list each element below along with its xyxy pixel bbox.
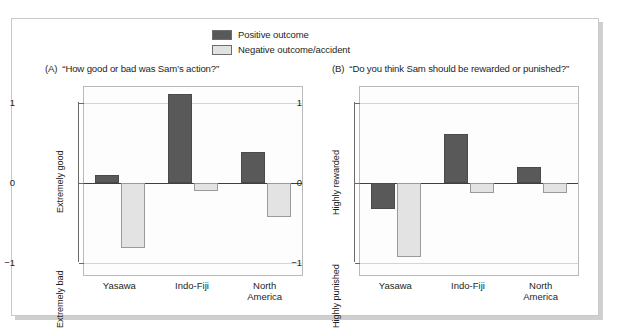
legend-swatch-negative-icon (212, 45, 232, 55)
legend-item-negative: Negative outcome/accident (212, 43, 452, 56)
panel-a-plot-area (83, 86, 303, 276)
legend-item-positive: Positive outcome (212, 28, 452, 41)
bar-yasawa-negative (121, 183, 145, 248)
x-axis-label: Indo-Fiji (451, 280, 485, 291)
panel-a-y-bottom-label: Extremely bad (55, 271, 65, 328)
panel-a-tag: (A) (45, 63, 57, 74)
panel-b-y-top-label: Highly rewarded (331, 150, 341, 215)
panel-a-question: “How good or bad was Sam’s action?” (62, 63, 219, 74)
chart-legend: Positive outcome Negative outcome/accide… (212, 28, 452, 58)
bar-yasawa-positive (95, 175, 119, 183)
y-tick-label: −1 (0, 257, 15, 268)
y-axis-spine (78, 102, 79, 262)
panel-b-title: (B)“Do you think Sam should be rewarded … (332, 63, 569, 74)
x-axis-label: North America (247, 280, 282, 302)
gridline-−1 (84, 263, 302, 264)
panel-b-y-bottom-label: Highly punished (331, 264, 341, 328)
bar-yasawa-negative (397, 183, 421, 257)
bar-indo-fiji-positive (168, 94, 192, 183)
bar-indo-fiji-negative (470, 183, 494, 193)
panel-b-plot-area (359, 86, 579, 276)
y-tick-mark (79, 103, 84, 104)
y-tick-mark (355, 183, 360, 184)
figure-frame: Positive outcome Negative outcome/accide… (11, 18, 599, 316)
legend-label-negative: Negative outcome/accident (238, 44, 350, 55)
x-axis-label: Yasawa (379, 280, 412, 291)
gridline-−1 (360, 263, 578, 264)
y-tick-label: 0 (0, 177, 15, 188)
legend-label-positive: Positive outcome (238, 29, 309, 40)
panel-a-title: (A)“How good or bad was Sam’s action?” (45, 63, 219, 74)
x-axis-label: North America (523, 280, 558, 302)
y-tick-label: 1 (0, 97, 15, 108)
panel-a: (A)“How good or bad was Sam’s action?” E… (25, 63, 314, 313)
panel-b-tag: (B) (332, 63, 344, 74)
legend-swatch-positive-icon (212, 30, 232, 40)
y-axis-spine (354, 102, 355, 262)
panel-b-question: “Do you think Sam should be rewarded or … (349, 63, 569, 74)
gridline-1 (84, 103, 302, 104)
y-tick-label: 0 (280, 177, 302, 188)
gridline-1 (360, 103, 578, 104)
y-tick-mark (355, 103, 360, 104)
panel-a-y-top-label: Extremely good (55, 151, 65, 213)
x-axis-label: Indo-Fiji (175, 280, 209, 291)
bar-indo-fiji-positive (444, 134, 468, 183)
panel-b: (B)“Do you think Sam should be rewarded … (312, 63, 599, 313)
y-tick-mark (79, 263, 84, 264)
figure-inner: Positive outcome Negative outcome/accide… (12, 19, 598, 315)
bar-north-america-positive (241, 152, 265, 183)
y-tick-label: 1 (280, 97, 302, 108)
bar-indo-fiji-negative (194, 183, 218, 191)
bar-north-america-positive (517, 167, 541, 183)
y-tick-mark (355, 263, 360, 264)
y-tick-mark (79, 183, 84, 184)
bar-north-america-negative (543, 183, 567, 193)
bar-north-america-negative (267, 183, 291, 217)
bar-yasawa-positive (371, 183, 395, 209)
y-tick-label: −1 (280, 257, 302, 268)
x-axis-label: Yasawa (103, 280, 136, 291)
